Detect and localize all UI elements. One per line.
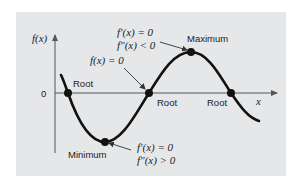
maximum-label: Maximum: [187, 33, 228, 44]
minimum-point: [101, 138, 109, 146]
max-condition-second-derivative: f″(x) < 0: [117, 39, 156, 52]
max-condition-first-derivative: f′(x) = 0: [117, 26, 154, 39]
root-label-3: Root: [207, 97, 227, 108]
root-point-1: [64, 89, 72, 97]
root-label-1: Root: [73, 78, 93, 89]
maximum-point: [187, 48, 195, 56]
root-point-3: [227, 89, 235, 97]
root-condition-label: f(x) = 0: [90, 54, 124, 67]
min-condition-arrow: [109, 143, 131, 150]
root-label-2: Root: [157, 97, 177, 108]
minimum-label: Minimum: [68, 149, 107, 160]
root-condition-arrow: [124, 68, 145, 89]
origin-label: 0: [41, 88, 46, 99]
y-axis-label: f(x): [32, 32, 48, 45]
function-roots-extrema-diagram: f(x) x 0 Root Root Root Maximum Minimum …: [0, 0, 297, 184]
min-condition-first-derivative: f′(x) = 0: [137, 141, 174, 154]
x-axis-label: x: [255, 95, 261, 107]
max-condition-arrow: [160, 42, 187, 50]
root-point-2: [145, 89, 153, 97]
min-condition-second-derivative: f″(x) > 0: [137, 154, 176, 167]
